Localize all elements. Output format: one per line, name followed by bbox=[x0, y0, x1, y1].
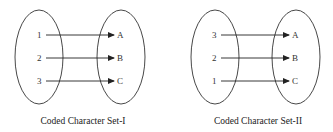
code-label: 1 bbox=[37, 30, 42, 40]
code-label: 1 bbox=[212, 76, 217, 86]
code-label: 2 bbox=[212, 53, 217, 63]
diagram-coded-character-set-2: 3 2 1 A B C Coded Character Set-II bbox=[191, 10, 320, 126]
code-label: 2 bbox=[37, 53, 42, 63]
diagram-coded-character-set-1: 1 2 3 A B C Coded Character Set-I bbox=[15, 10, 145, 126]
character-label: A bbox=[117, 30, 124, 40]
character-label: B bbox=[292, 53, 298, 63]
diagram-caption: Coded Character Set-II bbox=[214, 116, 302, 126]
character-label: A bbox=[292, 30, 299, 40]
code-label: 3 bbox=[212, 30, 217, 40]
character-label: B bbox=[117, 53, 123, 63]
character-label: C bbox=[117, 76, 123, 86]
character-label: C bbox=[292, 76, 298, 86]
code-label: 3 bbox=[37, 76, 42, 86]
diagram-caption: Coded Character Set-I bbox=[41, 116, 126, 126]
